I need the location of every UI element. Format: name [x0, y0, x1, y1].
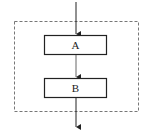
node-a: A [45, 36, 107, 55]
node-b: B [45, 79, 107, 98]
node-b-label: B [72, 82, 79, 94]
flowchart-diagram: A B [0, 0, 151, 132]
node-a-label: A [72, 39, 80, 51]
